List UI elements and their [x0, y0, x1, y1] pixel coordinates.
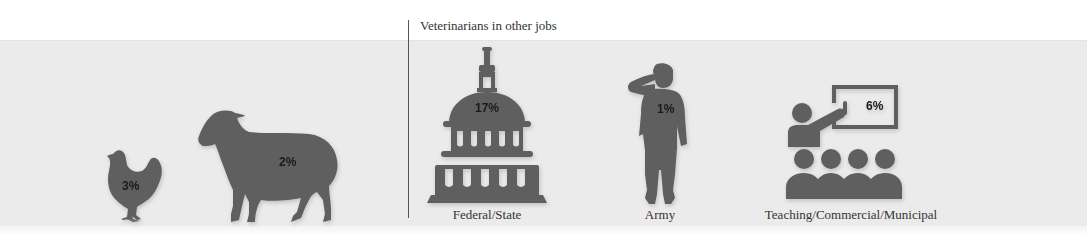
section-title: Veterinarians in other jobs [420, 18, 557, 34]
teaching-label: Teaching/Commercial/Municipal [756, 207, 946, 223]
teaching-percent: 6% [866, 99, 883, 113]
sheep-percent: 2% [279, 155, 296, 169]
capitol-building-icon: 17% [427, 47, 547, 204]
sheep-icon: 2% [197, 110, 343, 224]
army-label: Army [620, 207, 700, 223]
teacher-classroom-icon: 6% [786, 85, 902, 201]
federal-state-percent: 17% [475, 101, 499, 115]
chicken-percent: 3% [122, 179, 139, 193]
army-percent: 1% [657, 102, 674, 116]
section-divider [408, 20, 409, 218]
federal-state-label: Federal/State [427, 207, 547, 223]
band-shadow [0, 226, 1087, 236]
chicken-icon: 3% [106, 149, 164, 223]
saluting-soldier-icon: 1% [627, 62, 693, 206]
